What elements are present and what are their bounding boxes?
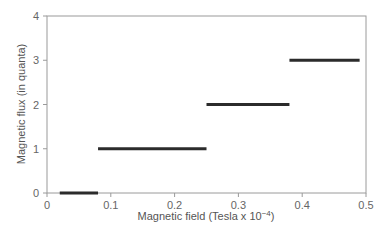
x-tick-label: 0.5 — [358, 199, 373, 211]
y-tick-label: 3 — [33, 54, 39, 66]
y-tick-label: 0 — [33, 187, 39, 199]
y-axis-label: Magnetic flux (in quanta) — [15, 44, 27, 164]
y-tick-label: 4 — [33, 10, 39, 22]
flux-step-segments — [60, 60, 360, 193]
x-tick-label: 0.4 — [295, 199, 310, 211]
x-axis-ticks: 00.10.20.30.40.5 — [44, 193, 374, 211]
y-tick-label: 1 — [33, 143, 39, 155]
y-tick-label: 2 — [33, 99, 39, 111]
y-axis-ticks: 01234 — [33, 10, 47, 199]
x-axis-label: Magnetic field (Tesla x 10−4) — [138, 209, 275, 222]
x-tick-label: 0 — [44, 199, 50, 211]
x-tick-label: 0.1 — [103, 199, 118, 211]
step-chart: 00.10.20.30.40.5 01234 Magnetic field (T… — [0, 0, 389, 232]
